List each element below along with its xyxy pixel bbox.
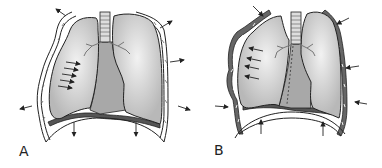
- panel-b: B: [191, 0, 382, 168]
- panel-a: A: [0, 0, 191, 168]
- panel-label-b: B: [214, 142, 224, 158]
- trachea: [100, 12, 110, 42]
- trachea: [291, 12, 301, 44]
- panel-label-a: A: [19, 143, 29, 159]
